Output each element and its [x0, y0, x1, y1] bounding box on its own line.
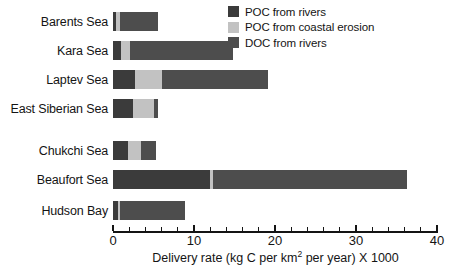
bar-segment-poc-rivers — [113, 141, 128, 160]
bar-segment-poc-rivers — [113, 70, 135, 89]
x-tick-minor — [226, 227, 227, 231]
x-tick-label: 40 — [422, 234, 452, 247]
legend-swatch-icon-poc-rivers — [228, 6, 239, 17]
x-axis-title-post: per year) X 1000 — [302, 251, 399, 265]
legend-swatch-icon-doc-rivers — [228, 37, 239, 48]
x-tick-minor — [404, 227, 405, 231]
x-tick-minor — [242, 227, 243, 231]
x-tick-minor — [307, 227, 308, 231]
x-tick-minor — [161, 227, 162, 231]
x-tick-minor — [372, 227, 373, 231]
y-axis-label-2: Laptev Sea — [4, 74, 108, 86]
x-tick-major — [112, 225, 113, 231]
bar-segment-doc-rivers — [154, 99, 158, 118]
bar-segment-doc-rivers — [130, 41, 233, 60]
horizontal-stacked-bar-chart: Barents Sea Kara Sea Laptev Sea East Sib… — [0, 0, 462, 273]
x-tick-label: 10 — [179, 234, 209, 247]
x-axis-title-pre: Delivery rate (kg C per km — [152, 251, 297, 265]
y-axis-label-1: Kara Sea — [4, 45, 108, 57]
bar-segment-poc-rivers — [113, 99, 133, 118]
x-tick-major — [436, 225, 437, 231]
x-tick-major — [355, 225, 356, 231]
x-tick-minor — [323, 227, 324, 231]
bar-segment-doc-rivers — [141, 141, 156, 160]
legend-label-poc-rivers: POC from rivers — [245, 6, 326, 18]
bar-segment-poc-coastal-erosion — [135, 70, 162, 89]
x-tick-minor — [420, 227, 421, 231]
legend-item-poc-rivers: POC from rivers — [228, 5, 374, 18]
x-tick-minor — [258, 227, 259, 231]
bar-segment-poc-rivers — [113, 170, 210, 189]
legend-item-poc-coastal-erosion: POC from coastal erosion — [228, 21, 374, 34]
x-tick-minor — [210, 227, 211, 231]
bar-segment-poc-coastal-erosion — [121, 41, 130, 60]
y-axis-label-3: East Siberian Sea — [0, 103, 108, 115]
bar-segment-doc-rivers — [120, 201, 185, 220]
legend-swatch-icon-poc-coastal-erosion — [228, 22, 239, 33]
x-tick-minor — [388, 227, 389, 231]
bar-segment-poc-coastal-erosion — [133, 99, 153, 118]
legend-item-doc-rivers: DOC from rivers — [228, 36, 374, 49]
y-axis-label-6: Hudson Bay — [4, 205, 108, 217]
bar-segment-poc-coastal-erosion — [128, 141, 140, 160]
x-tick-minor — [339, 227, 340, 231]
x-tick-label: 0 — [98, 234, 128, 247]
x-tick-major — [274, 225, 275, 231]
y-axis-label-5: Beaufort Sea — [4, 174, 108, 186]
legend-label-poc-coastal-erosion: POC from coastal erosion — [245, 21, 374, 33]
legend: POC from rivers POC from coastal erosion… — [228, 5, 374, 49]
x-axis-title: Delivery rate (kg C per km2 per year) X … — [113, 251, 438, 265]
x-tick-minor — [177, 227, 178, 231]
bar-segment-doc-rivers — [120, 12, 158, 31]
x-tick-label: 20 — [260, 234, 290, 247]
x-tick-minor — [291, 227, 292, 231]
bar-segment-doc-rivers — [213, 170, 407, 189]
bar-segment-doc-rivers — [162, 70, 268, 89]
x-tick-major — [193, 225, 194, 231]
bar-segment-poc-rivers — [113, 41, 121, 60]
x-tick-label: 30 — [341, 234, 371, 247]
x-tick-minor — [145, 227, 146, 231]
legend-label-doc-rivers: DOC from rivers — [245, 37, 327, 49]
y-axis-label-0: Barents Sea — [4, 16, 108, 28]
x-tick-minor — [129, 227, 130, 231]
y-axis-label-4: Chukchi Sea — [4, 145, 108, 157]
